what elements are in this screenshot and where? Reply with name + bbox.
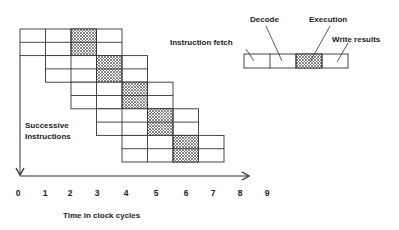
x-tick-0: 0: [16, 188, 21, 198]
x-tick-5: 5: [154, 188, 159, 198]
instruction-pair-5: [122, 135, 224, 162]
x-tick-7: 7: [211, 188, 216, 198]
pipeline-grid: [20, 29, 224, 162]
x-tick-9: 9: [265, 188, 270, 198]
legend-fetch-label: Instruction fetch: [170, 38, 233, 47]
instruction-pair-4: [97, 109, 199, 136]
x-axis-label: Time in clock cycles: [63, 211, 141, 220]
y-axis: [16, 56, 24, 175]
x-axis: [20, 172, 249, 180]
stage-legend: Instruction fetch Decode Execution Write…: [170, 15, 381, 68]
legend-write-label: Write results: [332, 35, 381, 44]
y-axis-label-line1: Successive: [25, 121, 69, 130]
x-tick-8: 8: [238, 188, 243, 198]
instruction-pair-1: [20, 29, 122, 56]
y-axis-label-line2: Instructions: [25, 132, 71, 141]
x-tick-6: 6: [184, 188, 189, 198]
legend-execution-cell: [296, 54, 322, 68]
instruction-pair-2: [46, 56, 148, 83]
legend-execution-label: Execution: [309, 15, 347, 24]
x-tick-labels: 0 1 2 3 4 5 6 7 8 9: [16, 188, 270, 198]
legend-decode-label: Decode: [250, 15, 279, 24]
pipeline-diagram: 0 1 2 3 4 5 6 7 8 9 Time in clock cycles…: [0, 0, 399, 230]
x-tick-4: 4: [124, 188, 129, 198]
instruction-pair-3: [71, 82, 173, 109]
x-tick-1: 1: [43, 188, 48, 198]
x-tick-3: 3: [95, 188, 100, 198]
x-tick-2: 2: [68, 188, 73, 198]
